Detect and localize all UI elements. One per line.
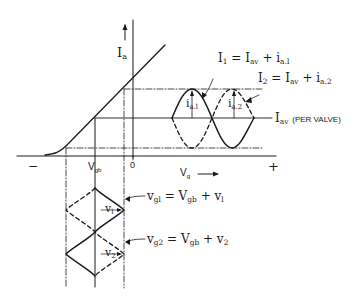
vg-axis-label: Vg xyxy=(180,168,190,179)
v1-label: vl xyxy=(105,203,113,216)
v2-label: v2 xyxy=(105,247,116,260)
ia1-label: ia.l xyxy=(186,98,198,111)
iav-label: Iav (PER VALVE) xyxy=(275,112,341,125)
vg2-equation: vg2 = Vgb + v2 xyxy=(147,233,228,246)
i1-equation: I1 = Iav + ia.l xyxy=(218,52,289,65)
ia-axis-label: Ia xyxy=(117,46,127,61)
vgb-tick: Vgb xyxy=(88,162,102,173)
i2-equation: I2 = Iav + ia.2 xyxy=(258,72,332,85)
plus-sign: + xyxy=(268,160,279,173)
zero-tick: 0 xyxy=(130,161,135,170)
minus-sign: − xyxy=(28,160,38,172)
ia2-label: ia.2 xyxy=(228,98,242,111)
vg1-equation: vgl = Vgb + vl xyxy=(147,190,224,203)
transfer-curve xyxy=(45,45,165,155)
push-pull-transfer-diagram xyxy=(0,0,355,300)
